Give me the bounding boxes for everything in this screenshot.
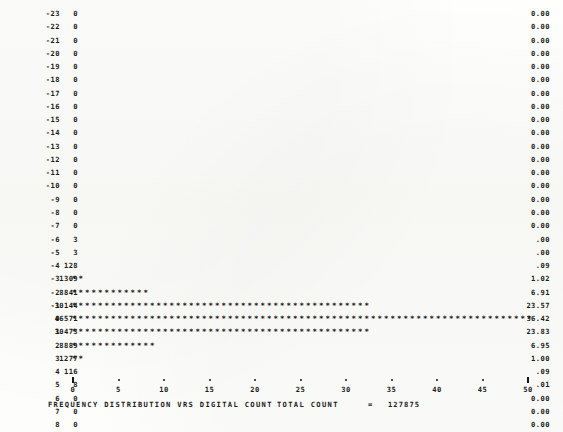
- histogram-row: -1600.00: [0, 100, 563, 113]
- axis-tick-label: 5: [116, 385, 121, 394]
- percent-value: 0.00: [498, 206, 550, 219]
- percent-value: 0.00: [498, 87, 550, 100]
- histogram-row: -700.00: [0, 219, 563, 232]
- axis-tick: [72, 377, 74, 383]
- axis-tick: [300, 379, 302, 381]
- frequency-value: 3: [40, 246, 78, 259]
- percent-value: 0.00: [498, 113, 550, 126]
- percent-value: 0.00: [498, 179, 550, 192]
- frequency-value: 0: [40, 126, 78, 139]
- frequency-value: 0: [40, 113, 78, 126]
- histogram-row: -2200.00: [0, 20, 563, 33]
- percent-value: 0.00: [498, 193, 550, 206]
- percent-value: 0.00: [498, 20, 550, 33]
- percent-value: 0.00: [498, 100, 550, 113]
- histogram-row: -1100.00: [0, 166, 563, 179]
- percent-value: 0.00: [498, 34, 550, 47]
- percent-value: 0.00: [498, 166, 550, 179]
- histogram-row: -130144*********************************…: [0, 299, 563, 312]
- percent-value: 0.00: [498, 140, 550, 153]
- axis-tick: [345, 379, 347, 381]
- histogram-row: -1400.00: [0, 126, 563, 139]
- histogram-row: -1000.00: [0, 179, 563, 192]
- frequency-value: 0: [40, 34, 78, 47]
- caption-line: FREQUENCY DISTRIBUTION VRS DIGITAL COUNT…: [0, 400, 563, 414]
- axis-tick: [209, 379, 211, 381]
- axis-tick-label: 50: [523, 385, 533, 394]
- histogram-row: -28841************6.91: [0, 286, 563, 299]
- asterisk-bar: **: [72, 272, 85, 285]
- histogram-row: -800.00: [0, 206, 563, 219]
- frequency-value: 128: [40, 259, 78, 272]
- histogram-rows: -2300.00-2200.00-2100.00-2000.00-1900.00…: [0, 7, 563, 432]
- axis-tick-label: 35: [387, 385, 397, 394]
- histogram-row: -2000.00: [0, 47, 563, 60]
- percent-value: 0.00: [498, 73, 550, 86]
- asterisk-bar: ****************************************…: [72, 299, 371, 312]
- percent-value: .00: [498, 233, 550, 246]
- frequency-value: 0: [40, 193, 78, 206]
- percent-value: 36.42: [498, 312, 550, 325]
- axis-tick-label: 20: [250, 385, 260, 394]
- percent-value: 0.00: [498, 219, 550, 232]
- frequency-value: 0: [40, 20, 78, 33]
- percent-value: 0.00: [498, 153, 550, 166]
- percent-value: 0.00: [498, 126, 550, 139]
- frequency-value: 3: [40, 233, 78, 246]
- frequency-value: 0: [40, 219, 78, 232]
- percent-value: .00: [498, 246, 550, 259]
- histogram-row: -31309**1.02: [0, 272, 563, 285]
- percent-value: 0.00: [498, 60, 550, 73]
- percent-value: 23.57: [498, 299, 550, 312]
- percent-value: 1.00: [498, 352, 550, 365]
- axis-tick: [436, 379, 438, 381]
- percent-value: 0.00: [498, 418, 550, 431]
- x-axis-tick-labels: 05101520253035404550: [0, 385, 563, 397]
- percent-value: 0.00: [498, 47, 550, 60]
- axis-tick: [163, 379, 165, 381]
- histogram-row: -1200.00: [0, 153, 563, 166]
- axis-tick: [254, 379, 256, 381]
- frequency-value: 0: [40, 7, 78, 20]
- percent-value: 6.95: [498, 339, 550, 352]
- frequency-value: 0: [40, 166, 78, 179]
- histogram-row: -900.00: [0, 193, 563, 206]
- asterisk-bar: ****************************************…: [72, 312, 533, 325]
- histogram-row: 046571**********************************…: [0, 312, 563, 325]
- axis-tick-label: 0: [71, 385, 76, 394]
- caption-title: FREQUENCY DISTRIBUTION VRS DIGITAL COUNT: [48, 400, 273, 409]
- frequency-value: 0: [40, 87, 78, 100]
- axis-tick-label: 25: [296, 385, 306, 394]
- frequency-value: 0: [40, 60, 78, 73]
- axis-tick-label: 40: [432, 385, 442, 394]
- axis-tick: [482, 379, 484, 381]
- histogram-row: -1800.00: [0, 73, 563, 86]
- axis-tick-label: 15: [205, 385, 215, 394]
- frequency-value: 0: [40, 47, 78, 60]
- histogram-row: -4128.09: [0, 259, 563, 272]
- frequency-value: 0: [40, 179, 78, 192]
- histogram-row: -2300.00: [0, 7, 563, 20]
- histogram-row: 130473**********************************…: [0, 325, 563, 338]
- asterisk-bar: **: [72, 352, 85, 365]
- axis-tick: [527, 377, 529, 383]
- histogram-row: 28889*************6.95: [0, 339, 563, 352]
- histogram-row: -53.00: [0, 246, 563, 259]
- percent-value: 23.83: [498, 325, 550, 338]
- frequency-value: 0: [40, 140, 78, 153]
- axis-tick-label: 10: [159, 385, 169, 394]
- frequency-value: 0: [40, 153, 78, 166]
- histogram-row: 31277**1.00: [0, 352, 563, 365]
- asterisk-bar: ****************************************…: [72, 325, 371, 338]
- histogram-row: -2100.00: [0, 34, 563, 47]
- histogram-row: -1700.00: [0, 87, 563, 100]
- caption-total-value: 127875: [388, 400, 420, 409]
- axis-tick: [118, 379, 120, 381]
- frequency-value: 0: [40, 100, 78, 113]
- axis-tick-label: 45: [478, 385, 488, 394]
- percent-value: 6.91: [498, 286, 550, 299]
- histogram-row: -1900.00: [0, 60, 563, 73]
- histogram-row: -1300.00: [0, 140, 563, 153]
- asterisk-bar: *************: [72, 339, 157, 352]
- caption-total-label: TOTAL COUNT: [277, 400, 339, 409]
